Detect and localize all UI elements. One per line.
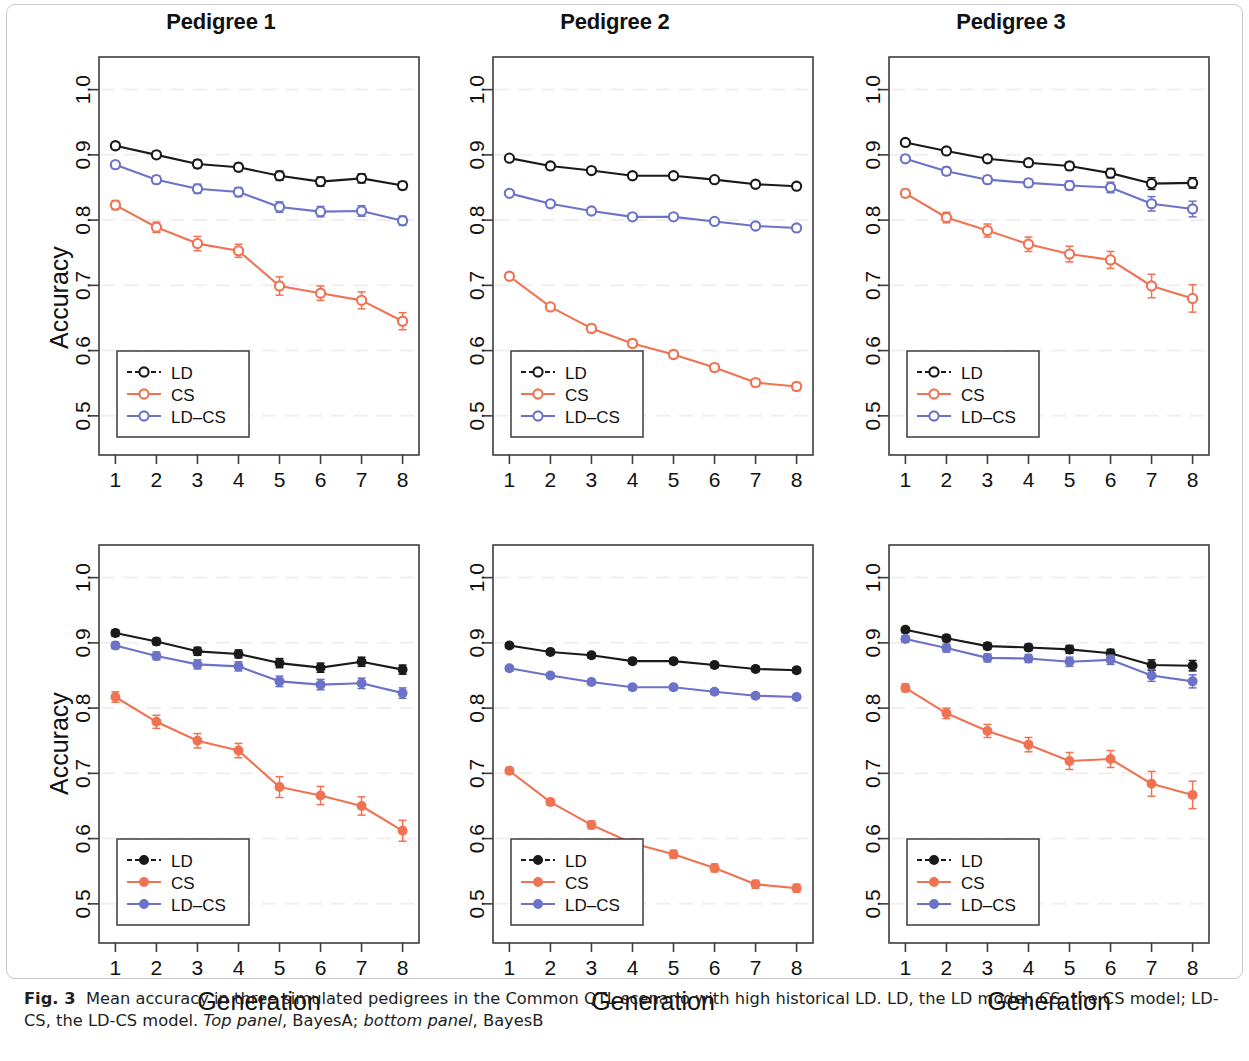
legend-label-ld: LD — [171, 852, 193, 871]
chart-panel-5: 0.50.60.70.80.91.012345678LDCSLD–CSGener… — [411, 497, 819, 982]
y-tick-label: 0.5 — [466, 401, 489, 430]
data-point — [1188, 677, 1197, 686]
y-tick-label: 0.9 — [466, 140, 489, 169]
caption-emphasis-1: Top panel — [203, 1011, 282, 1030]
data-point — [1106, 183, 1115, 192]
x-tick-label: 4 — [1023, 468, 1035, 491]
y-tick-label: 0.9 — [72, 140, 95, 169]
legend-marker — [929, 389, 938, 398]
y-tick-label: 1.0 — [466, 563, 489, 592]
data-point — [751, 665, 760, 674]
x-tick-label: 3 — [586, 956, 598, 979]
data-point — [751, 880, 760, 889]
panel-title-2: Pedigree 2 — [411, 9, 819, 35]
x-tick-label: 7 — [750, 468, 762, 491]
x-tick-label: 4 — [233, 956, 245, 979]
legend-marker — [533, 367, 542, 376]
data-point — [316, 177, 325, 186]
y-tick-label: 0.6 — [862, 824, 885, 853]
data-point — [193, 239, 202, 248]
data-point — [1024, 654, 1033, 663]
figure-caption: Fig. 3 Mean accuracy in three simulated … — [24, 988, 1224, 1032]
x-tick-label: 5 — [668, 956, 680, 979]
data-point — [1106, 755, 1115, 764]
data-point — [710, 217, 719, 226]
y-axis: 0.50.60.70.80.91.0 — [466, 563, 494, 918]
data-point — [316, 663, 325, 672]
data-point — [357, 296, 366, 305]
x-tick-label: 1 — [504, 956, 516, 979]
data-point — [901, 626, 910, 635]
y-tick-label: 0.8 — [862, 694, 885, 723]
y-axis: 0.50.60.70.80.91.0 — [72, 563, 100, 918]
chart-panel-4: 0.50.60.70.80.91.012345678LDCSLD–CSAccur… — [17, 497, 425, 982]
data-point — [942, 213, 951, 222]
data-point — [751, 180, 760, 189]
y-axis-title: Accuracy — [45, 246, 74, 349]
y-tick-label: 0.7 — [862, 271, 885, 300]
legend-label-cs: CS — [171, 874, 195, 893]
data-point — [983, 654, 992, 663]
data-point — [901, 684, 910, 693]
x-tick-label: 3 — [586, 468, 598, 491]
y-axis: 0.50.60.70.80.91.0 — [862, 75, 890, 430]
series-cs — [901, 684, 1197, 809]
data-point — [983, 642, 992, 651]
data-point — [942, 709, 951, 718]
y-tick-label: 1.0 — [466, 75, 489, 104]
x-tick-label: 1 — [110, 956, 122, 979]
y-tick-label: 0.7 — [466, 271, 489, 300]
data-point — [234, 246, 243, 255]
legend-label-ld_cs: LD–CS — [171, 896, 226, 915]
data-point — [1024, 240, 1033, 249]
caption-text-2: , BayesA; — [282, 1011, 363, 1030]
series-cs — [111, 692, 407, 841]
x-tick-label: 4 — [1023, 956, 1035, 979]
data-point — [1065, 657, 1074, 666]
data-point — [792, 693, 801, 702]
x-tick-label: 2 — [151, 956, 163, 979]
series-ld_cs — [111, 160, 407, 225]
x-tick-label: 4 — [627, 468, 639, 491]
x-tick-label: 4 — [627, 956, 639, 979]
x-tick-label: 8 — [791, 468, 803, 491]
data-point — [669, 350, 678, 359]
data-point — [1147, 199, 1156, 208]
data-point — [546, 648, 555, 657]
legend-marker — [139, 411, 148, 420]
data-point — [628, 339, 637, 348]
y-tick-label: 0.7 — [72, 271, 95, 300]
x-tick-label: 1 — [504, 468, 516, 491]
x-axis: 12345678 — [504, 455, 803, 491]
data-point — [710, 864, 719, 873]
data-point — [234, 650, 243, 659]
x-tick-label: 6 — [1105, 468, 1117, 491]
x-tick-label: 5 — [274, 956, 286, 979]
chart-svg-5: 0.50.60.70.80.91.012345678LDCSLD–CS — [411, 497, 819, 982]
data-point — [587, 206, 596, 215]
x-axis: 12345678 — [900, 943, 1199, 979]
data-point — [628, 657, 637, 666]
data-point — [398, 826, 407, 835]
data-point — [628, 171, 637, 180]
data-point — [316, 207, 325, 216]
data-point — [792, 382, 801, 391]
data-point — [587, 166, 596, 175]
data-point — [901, 635, 910, 644]
y-tick-label: 0.8 — [72, 206, 95, 235]
x-tick-label: 6 — [315, 468, 327, 491]
series-ld — [505, 641, 801, 674]
legend: LDCSLD–CS — [511, 351, 643, 437]
legend-label-ld_cs: LD–CS — [961, 408, 1016, 427]
data-point — [751, 221, 760, 230]
data-point — [398, 665, 407, 674]
data-point — [275, 171, 284, 180]
series-ld_cs — [111, 641, 407, 698]
chart-svg-1: 0.50.60.70.80.91.012345678LDCSLD–CS — [17, 9, 425, 494]
x-axis: 12345678 — [110, 455, 409, 491]
y-tick-label: 0.7 — [466, 759, 489, 788]
legend-marker — [929, 411, 938, 420]
data-point — [792, 884, 801, 893]
x-tick-label: 3 — [982, 956, 994, 979]
legend: LDCSLD–CS — [117, 839, 249, 925]
